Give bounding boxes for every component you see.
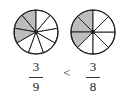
denominator-right: 8 xyxy=(83,80,103,93)
center-dot xyxy=(91,30,95,34)
numerator-left: 3 xyxy=(26,60,46,74)
circle-right xyxy=(71,10,115,54)
fraction-bar-left xyxy=(29,77,43,78)
circle-left xyxy=(14,10,58,54)
numerator-right: 3 xyxy=(83,60,103,74)
fraction-bar-right xyxy=(86,77,100,78)
center-dot xyxy=(34,30,38,34)
comparison-sign: < xyxy=(60,65,74,81)
denominator-left: 9 xyxy=(26,80,46,93)
